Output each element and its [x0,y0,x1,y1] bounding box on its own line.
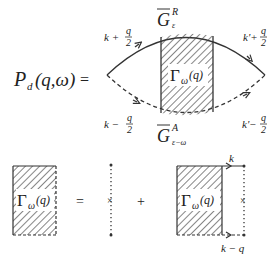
momentum-num: q [127,112,132,123]
momentum-bottom-left: k − q 2 [104,112,133,135]
gamma-symbol-3: Γ [181,191,191,210]
gamma-symbol-2: Γ [17,191,27,210]
momentum-den: 2 [126,37,131,48]
p-symbol: P [13,68,26,90]
gamma-subscript-2: ω [28,200,35,211]
momentum-den: 2 [261,37,266,48]
vertex-box-lhs: Γ ω (q) [13,166,56,235]
momentum-k-label: k [229,152,235,164]
impurity-line-1: × [107,164,113,237]
momentum-top-left: k + q 2 [104,25,132,48]
gamma-args-1: (q) [189,68,203,82]
momentum-den: 2 [261,124,266,135]
plus-sign: + [137,194,145,209]
momentum-base: k − [104,118,119,130]
p-subscript: d [27,80,33,92]
impurity-line-2: × [240,165,246,237]
momentum-top-right: k'+ q 2 [243,25,267,48]
vertex-box-rhs: Γ ω (q) [177,163,244,238]
momentum-k-minus-q-label: k − q [221,242,245,254]
momentum-den: 2 [127,124,132,135]
g-r-symbol: G [157,10,170,30]
g-a-subscript: ε−ω [172,138,187,147]
momentum-base: k'+ [243,31,258,43]
gamma-symbol-1: Γ [170,66,180,85]
momentum-num: q [261,112,266,123]
impurity-cross-2: × [240,195,246,206]
g-a-symbol: G [157,126,170,146]
equals-sign-1: = [80,71,89,88]
vertex-box-1: Γ ω (q) [161,34,213,116]
g-r-superscript: R [171,6,178,17]
gamma-subscript-3: ω [192,200,199,211]
g-advanced-label: G A ε−ω [157,122,187,147]
gamma-args-2: (q) [36,193,50,207]
momentum-num: q [261,25,266,36]
gamma-subscript-1: ω [181,75,188,86]
impurity-cross-1: × [107,195,113,206]
momentum-num: q [126,25,131,36]
momentum-base: k'− [242,118,257,130]
lhs-polarization: P d (q,ω) = [13,68,89,92]
g-retarded-label: G R ε [157,6,178,30]
momentum-bottom-right: k'− q 2 [242,112,267,135]
feynman-diagram: P d (q,ω) = Γ ω (q) G R ε G A ε−ω [0,0,277,261]
g-a-superscript: A [171,122,179,133]
p-args: (q,ω) [35,69,75,91]
momentum-base: k + [104,31,119,43]
g-r-subscript: ε [172,21,176,30]
gamma-args-3: (q) [200,193,214,207]
equals-sign-2: = [76,194,84,209]
